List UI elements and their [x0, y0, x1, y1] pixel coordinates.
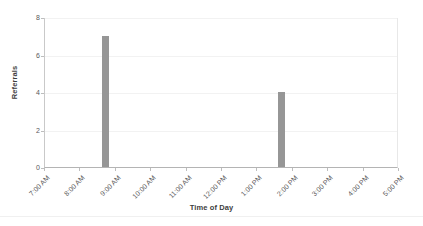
bottom-divider: [0, 216, 423, 217]
x-tick-mark: [221, 168, 222, 171]
bar[interactable]: [278, 92, 285, 167]
y-tick-label: 2: [2, 127, 40, 135]
y-tick-label: 4: [2, 89, 40, 97]
bar[interactable]: [102, 36, 109, 167]
gridline: [45, 93, 397, 94]
x-tick-mark: [44, 168, 45, 171]
x-axis-title: Time of Day: [0, 203, 423, 212]
x-tick-mark: [327, 168, 328, 171]
x-tick-mark: [363, 168, 364, 171]
x-tick-mark: [115, 168, 116, 171]
x-tick-mark: [256, 168, 257, 171]
gridline: [45, 56, 397, 57]
referrals-bar-chart: Referrals 02468 7:00 AM8:00 AM9:00 AM10:…: [0, 0, 423, 226]
x-axis: 7:00 AM8:00 AM9:00 AM10:00 AM11:00 AM12:…: [0, 168, 423, 208]
x-tick-mark: [398, 168, 399, 171]
x-tick-mark: [79, 168, 80, 171]
x-tick-mark: [150, 168, 151, 171]
y-tick-label: 8: [2, 14, 40, 22]
y-tick-label: 6: [2, 52, 40, 60]
gridline: [45, 18, 397, 19]
gridline: [45, 131, 397, 132]
x-tick-mark: [186, 168, 187, 171]
plot-area: [44, 18, 398, 168]
x-tick-mark: [292, 168, 293, 171]
